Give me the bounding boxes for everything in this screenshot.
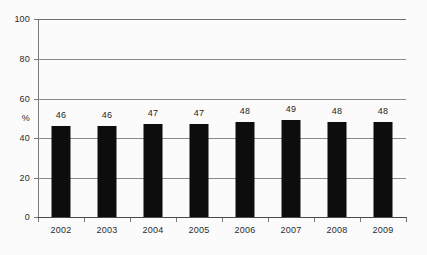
- x-tick-mark-3: [176, 218, 177, 222]
- x-tick-label-2005: 2005: [189, 226, 210, 235]
- bar-2002: [52, 126, 71, 217]
- bar-value-2009: 48: [378, 107, 388, 116]
- bar-value-2004: 47: [148, 109, 158, 118]
- bar-value-2005: 47: [194, 109, 204, 118]
- plot-area: 46 46 47 47 48 49 48 48: [38, 19, 406, 217]
- x-tick-label-2007: 2007: [281, 226, 302, 235]
- bar-slot-2007: 49: [268, 19, 314, 217]
- bar-2003: [98, 126, 117, 217]
- bar-value-2008: 48: [332, 107, 342, 116]
- bar-value-2007: 49: [286, 105, 296, 114]
- x-tick-label-2009: 2009: [373, 226, 394, 235]
- bar-2006: [236, 122, 255, 217]
- x-tick-label-2006: 2006: [235, 226, 256, 235]
- x-tick-label-2008: 2008: [327, 226, 348, 235]
- y-tick-label-0: 0: [4, 213, 30, 222]
- bar-value-2003: 46: [102, 111, 112, 120]
- x-tick-label-2002: 2002: [51, 226, 72, 235]
- bar-slot-2009: 48: [360, 19, 406, 217]
- x-tick-mark-0: [38, 218, 39, 222]
- bar-2004: [144, 124, 163, 217]
- x-tick-mark-7: [360, 218, 361, 222]
- bar-2009: [374, 122, 393, 217]
- bar-2007: [282, 120, 301, 217]
- bar-slot-2006: 48: [222, 19, 268, 217]
- x-tick-mark-8: [406, 218, 407, 222]
- y-tick-label-20: 20: [4, 174, 30, 183]
- x-tick-label-2003: 2003: [97, 226, 118, 235]
- y-tick-label-60: 60: [4, 95, 30, 104]
- x-tick-label-2004: 2004: [143, 226, 164, 235]
- bar-value-2002: 46: [56, 111, 66, 120]
- y-tick-label-100: 100: [4, 15, 30, 24]
- x-tick-mark-2: [130, 218, 131, 222]
- bar-slot-2005: 47: [176, 19, 222, 217]
- x-tick-mark-1: [84, 218, 85, 222]
- bar-slot-2002: 46: [38, 19, 84, 217]
- bar-2008: [328, 122, 347, 217]
- bar-slot-2003: 46: [84, 19, 130, 217]
- bar-slot-2004: 47: [130, 19, 176, 217]
- y-tick-label-40: 40: [4, 134, 30, 143]
- bar-chart-figure: 100 80 60 40 20 0 % 46 46 47: [0, 0, 427, 255]
- x-tick-mark-6: [314, 218, 315, 222]
- y-tick-label-80: 80: [4, 55, 30, 64]
- bar-2005: [190, 124, 209, 217]
- y-axis-title: %: [4, 114, 30, 123]
- bar-value-2006: 48: [240, 107, 250, 116]
- bar-slot-2008: 48: [314, 19, 360, 217]
- x-tick-mark-4: [222, 218, 223, 222]
- x-tick-mark-5: [268, 218, 269, 222]
